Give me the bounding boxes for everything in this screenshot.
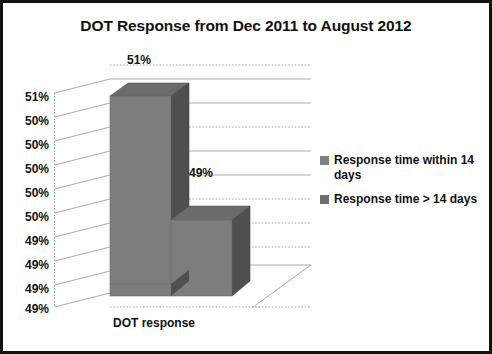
legend-label: Response time within 14 days	[334, 153, 485, 183]
data-label-series-1: 51%	[127, 53, 151, 67]
data-label-series-2: 49%	[189, 166, 213, 180]
legend-item-response-within-14-days: Response time within 14 days	[320, 153, 485, 183]
y-tick-label: 50%	[5, 139, 49, 151]
legend-label: Response time > 14 days	[334, 192, 477, 207]
chart-plot-area: DOT Response from Dec 2011 to August 201…	[3, 3, 489, 351]
y-tick-label: 50%	[5, 163, 49, 175]
y-tick-label: 49%	[5, 259, 49, 271]
side-wall-gridlines	[55, 79, 111, 307]
legend-item-response-over-14-days: Response time > 14 days	[320, 192, 485, 207]
y-tick-label: 50%	[5, 211, 49, 223]
bar-1-front-foot	[110, 284, 171, 296]
chart-legend: Response time within 14 days Response ti…	[320, 153, 485, 216]
y-tick-label: 51%	[5, 91, 49, 103]
y-tick-label: 50%	[5, 115, 49, 127]
x-axis-label: DOT response	[113, 316, 195, 330]
y-tick-label: 49%	[5, 303, 49, 315]
chart-image: DOT Response from Dec 2011 to August 201…	[0, 0, 492, 354]
bar-1-front-face	[110, 96, 171, 284]
y-tick-label: 50%	[5, 187, 49, 199]
legend-swatch-icon	[320, 195, 329, 204]
bar-2-side-face	[232, 206, 250, 296]
y-tick-label: 49%	[5, 283, 49, 295]
legend-swatch-icon	[320, 156, 329, 165]
y-tick-label: 49%	[5, 235, 49, 247]
